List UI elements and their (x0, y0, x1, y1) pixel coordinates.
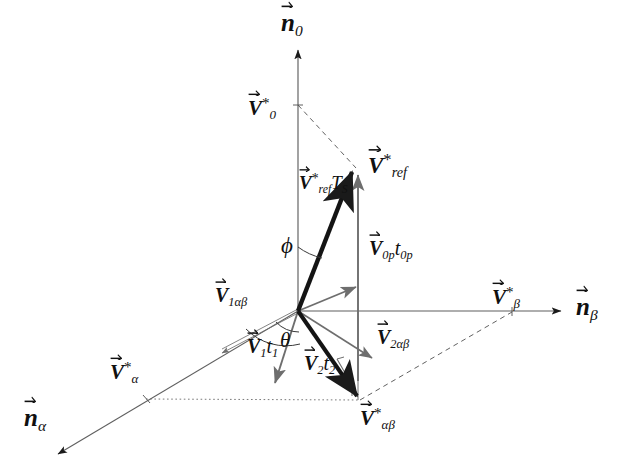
vector-label-v2-alpha-beta: V2αβ (377, 327, 409, 350)
axis-group (58, 50, 561, 454)
vector-label-v-star-ref: V*ref (368, 152, 407, 179)
vector-label-v2-alpha-beta-base: V (377, 326, 390, 348)
tick-label-v-star-beta-sup: * (506, 284, 514, 300)
vector-label-v1-alpha-beta: V1αβ (215, 285, 247, 308)
vector-label-v-star-alpha-beta-base: V (360, 406, 374, 430)
vector-label-v0p-t0p-suffix-sub: 0p (400, 248, 412, 262)
vector-label-v2-t2-base: V (304, 352, 317, 374)
vector-diagram-svg (0, 0, 624, 475)
axis-label-nbeta-base: n (576, 293, 590, 320)
figure-canvas: n0 nβ nα V*0 V*β V*α V*refTS V*ref V0pt0… (0, 0, 624, 475)
vector-label-v1-alpha-beta-base: V (215, 284, 228, 306)
vector-label-v1-alpha-beta-sub: 1αβ (228, 295, 247, 309)
v0-to-vref-dashed (298, 105, 356, 168)
tick-label-v-star-alpha: V*α (110, 360, 138, 385)
vector-label-vref-ts: V*refTS (299, 172, 348, 196)
axis-label-nalpha: nα (24, 405, 46, 433)
phi-angle-symbol: ϕ (281, 233, 293, 258)
axis-label-n0: n0 (281, 10, 303, 38)
axis-label-nbeta: nβ (576, 294, 598, 322)
axis-label-nbeta-sub: β (590, 306, 598, 323)
tick-label-v-star-zero: V*0 (248, 96, 276, 121)
tick-label-v-star-zero-sub: 0 (270, 107, 277, 122)
axis-label-n0-sub: 0 (295, 22, 303, 39)
vector-label-v-star-alpha-beta-sub: αβ (382, 417, 395, 432)
vector-label-vref-ts-sup: * (312, 171, 319, 186)
tick-label-v-star-beta: V*β (492, 285, 520, 310)
vector-label-vref-ts-sub: ref (319, 183, 332, 196)
tick-label-v-star-alpha-sub: α (132, 371, 139, 386)
valpha-to-valphabeta-dotted (146, 399, 359, 400)
vector-label-v2-alpha-beta-sub: 2αβ (390, 337, 409, 351)
vector-label-v0p-t0p: V0pt0p (369, 238, 413, 261)
vector-label-v-star-ref-base: V (368, 153, 383, 178)
tick-label-v-star-beta-base: V (492, 285, 506, 309)
vector-label-v2-t2-suffix-sub: 2 (329, 363, 335, 377)
parallelogram-edge (337, 357, 344, 359)
vector-label-v-star-alpha-beta: V*αβ (360, 406, 395, 431)
vector-label-v1-t1-base: V (247, 335, 260, 357)
theta-angle-label: θ (280, 330, 290, 351)
vector-label-v2-t2: V2t2 (304, 353, 335, 376)
vector-label-v-star-alpha-beta-sup: * (374, 405, 382, 421)
vector-label-v1-t1: V1t1 (247, 336, 278, 359)
phi-angle-label: ϕ (281, 234, 293, 257)
tick-label-v-star-alpha-sup: * (124, 359, 132, 375)
theta-angle-symbol: θ (280, 328, 290, 352)
tick-label-v-star-zero-sup: * (262, 95, 270, 111)
v-two-alpha-beta-vector (298, 311, 372, 358)
axis-label-nalpha-sub: α (38, 417, 46, 434)
axis-label-n0-base: n (281, 9, 295, 36)
vector-label-v0p-t0p-sub: 0p (382, 248, 394, 262)
vector-label-v1-t1-suffix-sub: 1 (272, 346, 278, 360)
n-alpha-axis-line (58, 311, 298, 454)
vector-label-v-star-ref-sup: * (383, 150, 391, 169)
vector-label-vref-ts-base: V (299, 172, 312, 193)
vector-label-vref-ts-suffix: T (331, 172, 342, 193)
vector-label-vref-ts-suffix-sub: S (342, 183, 348, 196)
tick-label-v-star-beta-sub: β (514, 296, 520, 311)
tick-label-v-star-alpha-base: V (110, 360, 124, 384)
vector-label-v-star-ref-sub: ref (392, 164, 407, 180)
axis-label-nalpha-base: n (24, 404, 38, 431)
tick-label-v-star-zero-base: V (248, 96, 262, 120)
vector-label-v0p-t0p-base: V (369, 237, 382, 259)
